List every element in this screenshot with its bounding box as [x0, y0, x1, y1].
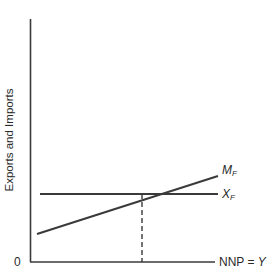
- xf-line-label: XF: [222, 187, 235, 202]
- xf-label-main: X: [222, 187, 230, 201]
- x-axis-label-text: NNP =: [219, 255, 258, 269]
- xf-label-sub: F: [230, 193, 235, 202]
- origin-label: 0: [14, 255, 21, 269]
- x-axis-label: NNP = Y: [219, 255, 266, 269]
- x-axis-label-var: Y: [258, 255, 266, 269]
- chart-canvas: [0, 0, 273, 280]
- mf-label-sub: F: [232, 169, 237, 178]
- y-axis-label: Exports and Imports: [3, 60, 19, 220]
- imports-line-mf: [37, 176, 218, 234]
- mf-line-label: MF: [222, 163, 237, 178]
- mf-label-main: M: [222, 163, 232, 177]
